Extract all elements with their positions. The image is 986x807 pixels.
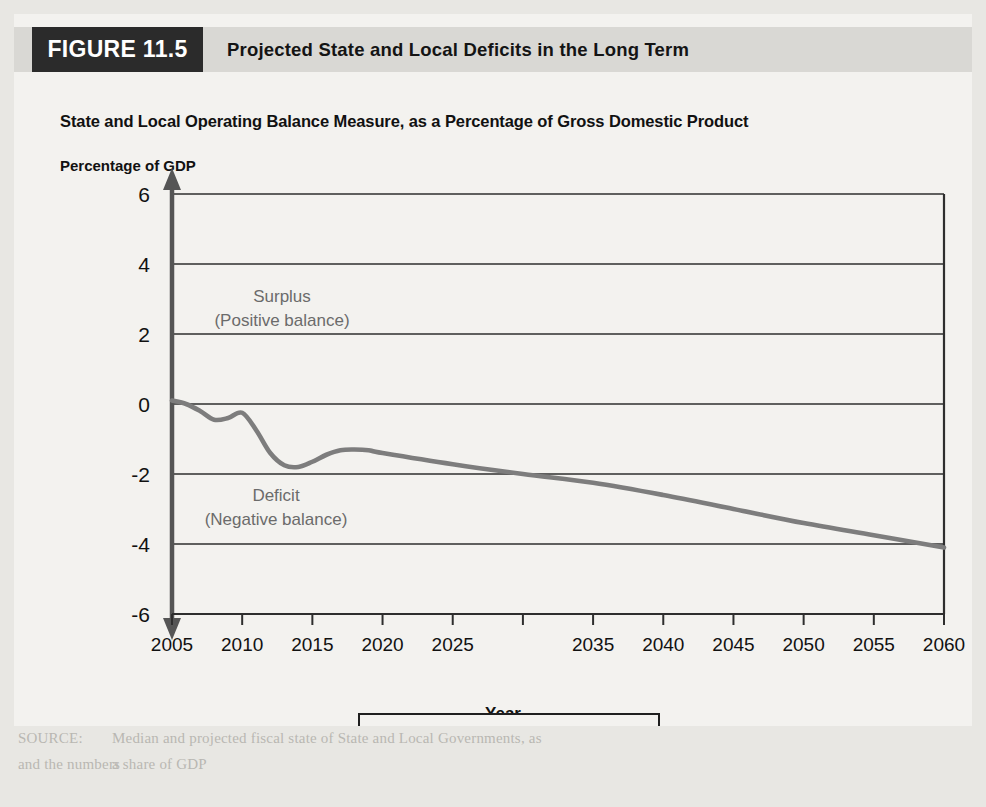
x-axis-tick-label: 2045: [712, 634, 754, 655]
x-axis-tick-label: 2060: [923, 634, 965, 655]
page-bleed-text: SOURCE:: [18, 730, 83, 747]
x-axis-tick-label: 2035: [572, 634, 614, 655]
x-axis-tick-label: 2055: [853, 634, 895, 655]
chart-svg: 6420-2-4-6200520102015202020252035204020…: [14, 14, 972, 726]
x-axis-tick-label: 2020: [361, 634, 403, 655]
page-bleed-text: a share of GDP: [112, 756, 207, 773]
deficit-annotation-line2: (Negative balance): [205, 510, 348, 529]
y-axis-arrow-up-icon: [163, 168, 181, 190]
y-axis-tick-label: -2: [131, 463, 150, 486]
plot-area: 6420-2-4-6200520102015202020252035204020…: [14, 14, 972, 726]
page-bleed-text: and the numbers: [18, 756, 120, 773]
y-axis-tick-label: 6: [138, 183, 150, 206]
figure-card: FIGURE 11.5 Projected State and Local De…: [14, 14, 972, 726]
x-axis-tick-label: 2015: [291, 634, 333, 655]
x-axis-tick-label: 2050: [782, 634, 824, 655]
x-axis-tick-label: 2005: [151, 634, 193, 655]
y-axis-tick-label: -6: [131, 603, 150, 626]
y-axis-tick-label: -4: [131, 533, 150, 556]
x-axis-tick-label: 2040: [642, 634, 684, 655]
y-axis-tick-label: 0: [138, 393, 150, 416]
x-axis-tick-label: 2025: [432, 634, 474, 655]
deficit-annotation-line1: Deficit: [252, 486, 300, 505]
page-bleed-text: Median and projected fiscal state of Sta…: [112, 730, 542, 747]
y-axis-tick-label: 4: [138, 253, 150, 276]
legend-box: [359, 714, 659, 726]
x-axis-tick-label: 2010: [221, 634, 263, 655]
surplus-annotation-line1: Surplus: [253, 287, 311, 306]
surplus-annotation-line2: (Positive balance): [214, 311, 349, 330]
y-axis-tick-label: 2: [138, 323, 150, 346]
